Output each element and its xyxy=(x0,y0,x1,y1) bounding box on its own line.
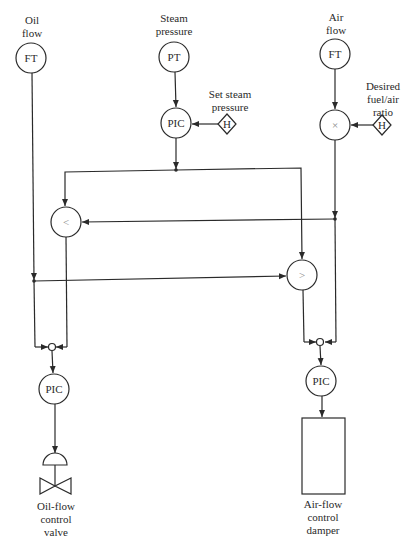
set-steam-label-2: pressure xyxy=(212,101,249,113)
steam-pic-text: PIC xyxy=(167,117,184,129)
control-diagram: Oil flow Steam pressure Air flow Set ste… xyxy=(0,0,411,545)
high-select-text: > xyxy=(299,269,305,281)
pt-text: PT xyxy=(168,51,181,63)
low-select-down-line xyxy=(66,237,67,347)
air-flow-label-1: Air xyxy=(329,11,344,23)
oil-to-high-select-line xyxy=(34,276,286,281)
air-damper-label-1: Air-flow xyxy=(304,498,342,510)
oil-sum-to-pic-line xyxy=(52,351,53,373)
oil-ft-text: FT xyxy=(25,52,38,64)
oil-down-line xyxy=(34,281,35,347)
set-steam-label-1: Set steam xyxy=(209,88,252,100)
oil-flow-label-1: Oil xyxy=(25,14,39,26)
valve-body-right xyxy=(55,478,71,494)
steam-pressure-label-2: pressure xyxy=(156,25,193,37)
valve-actuator xyxy=(43,453,67,465)
oil-pic-text: PIC xyxy=(45,383,62,395)
air-damper-label-3: damper xyxy=(307,524,340,536)
air-to-low-select-line xyxy=(82,219,335,222)
ratio-h-text: H xyxy=(378,119,386,131)
air-pic-text: PIC xyxy=(312,375,329,387)
oil-valve-label-1: Oil-flow xyxy=(37,500,75,512)
steam-to-low-select-line xyxy=(65,170,176,206)
steam-h-text: H xyxy=(223,118,231,130)
pt-to-pic-line xyxy=(175,72,176,107)
steam-pressure-label-1: Steam xyxy=(160,12,188,24)
multiplier-text: × xyxy=(332,119,338,131)
high-select-down-line xyxy=(303,290,304,342)
air-sum-to-pic-line xyxy=(320,346,321,365)
oil-valve-label-3: valve xyxy=(44,526,68,538)
air-damper xyxy=(302,418,345,494)
low-select-text: < xyxy=(63,216,69,228)
air-down-line xyxy=(335,219,336,342)
oil-flow-label-2: flow xyxy=(22,27,42,39)
air-damper-label-2: control xyxy=(307,511,338,523)
oil-summing-junction xyxy=(49,344,56,351)
ratio-label-1: Desired xyxy=(366,80,401,92)
oil-valve-label-2: control xyxy=(40,513,71,525)
oil-signal-line xyxy=(32,73,34,280)
steam-to-high-select-line xyxy=(176,168,302,259)
air-flow-label-2: flow xyxy=(326,24,346,36)
valve-body-left xyxy=(40,478,55,494)
air-summing-junction xyxy=(317,339,324,346)
air-ft-text: FT xyxy=(329,48,342,60)
ratio-label-2: fuel/air xyxy=(367,93,399,105)
